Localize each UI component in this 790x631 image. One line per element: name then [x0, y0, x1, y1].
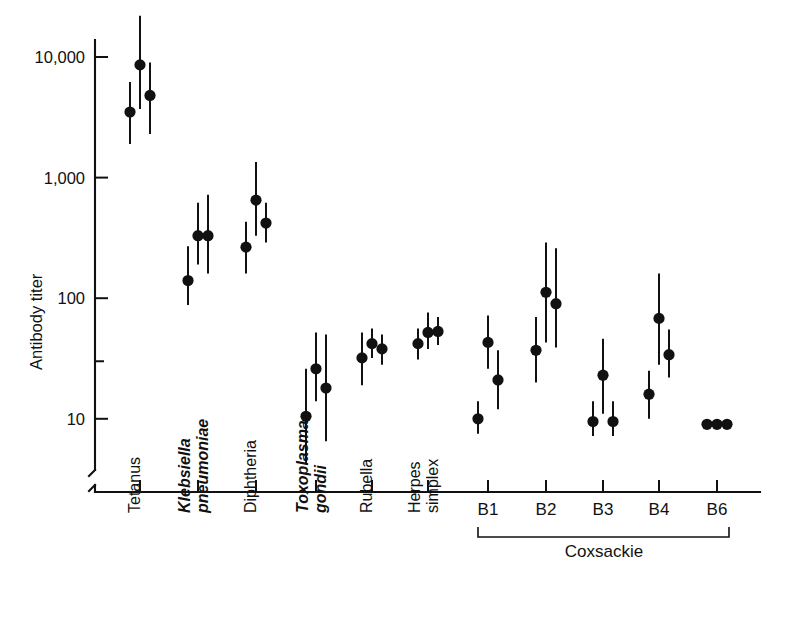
data-point	[366, 338, 377, 349]
data-series	[124, 16, 732, 463]
data-point	[300, 411, 311, 422]
data-point	[192, 230, 203, 241]
group-label-b2: B2	[536, 500, 557, 519]
data-point	[663, 349, 674, 360]
group-label-b3: B3	[593, 500, 614, 519]
data-point	[607, 416, 618, 427]
group-label-b6: B6	[707, 500, 728, 519]
data-point	[653, 313, 664, 324]
group-label-b4: B4	[649, 500, 670, 519]
data-point	[320, 382, 331, 393]
data-point	[124, 106, 135, 117]
category-group-b2	[530, 242, 561, 382]
category-group-b4	[643, 274, 674, 419]
data-point	[587, 416, 598, 427]
chart-canvas: 10,0001,00010010 Antibody titer B1B2B3B4…	[0, 0, 790, 631]
data-point	[376, 343, 387, 354]
category-label-toxoplasma-gondii-line2: gondii	[312, 464, 329, 514]
category-group-b6	[701, 419, 732, 430]
y-axis-title: Antibody titer	[27, 273, 45, 370]
data-point	[250, 195, 261, 206]
y-tick-marks	[95, 57, 108, 419]
category-group-b3	[587, 339, 618, 436]
data-point	[482, 337, 493, 348]
category-group-rubella	[356, 329, 387, 386]
category-label-herpes-simplex-line2: simplex	[424, 459, 441, 513]
data-point	[432, 326, 443, 337]
data-point	[202, 230, 213, 241]
coxsackie-label: Coxsackie	[565, 542, 643, 561]
data-point	[144, 90, 155, 101]
data-point	[540, 287, 551, 298]
category-label-klebsiella-pneumoniae-line1: Klebsiella	[176, 438, 193, 513]
category-label-diphtheria-line1: Diphtheria	[242, 440, 259, 513]
antibody-titer-figure: 10,0001,00010010 Antibody titer B1B2B3B4…	[0, 0, 790, 631]
category-group-herpes-simplex	[412, 313, 443, 360]
category-label-toxoplasma-gondii-line1: Toxoplasma	[294, 420, 311, 513]
category-labels: TetanusKlebsiellapneumoniaeDiphtheriaTox…	[126, 419, 441, 514]
category-group-tetanus	[124, 16, 155, 144]
data-point	[356, 352, 367, 363]
data-point	[492, 374, 503, 385]
data-point	[240, 242, 251, 253]
y-tick-label-100: 100	[57, 289, 85, 307]
data-point	[472, 413, 483, 424]
category-group-klebsiella-pneumoniae	[182, 195, 213, 305]
data-point	[260, 217, 271, 228]
y-tick-label-10: 10	[67, 410, 85, 428]
data-point	[422, 327, 433, 338]
group-label-b1: B1	[478, 500, 499, 519]
data-point	[530, 345, 541, 356]
data-point	[701, 419, 712, 430]
data-point	[412, 338, 423, 349]
data-point	[597, 370, 608, 381]
category-group-diphtheria	[240, 162, 271, 274]
y-tick-label-10000: 10,000	[35, 48, 85, 66]
category-label-tetanus-line1: Tetanus	[126, 457, 143, 513]
data-point	[643, 389, 654, 400]
data-point	[721, 419, 732, 430]
data-point	[310, 363, 321, 374]
category-label-klebsiella-pneumoniae-line2: pneumoniae	[194, 419, 211, 514]
coxsackie-bracket	[478, 527, 729, 537]
category-group-b1	[472, 315, 503, 433]
data-point	[134, 59, 145, 70]
data-point	[550, 298, 561, 309]
category-label-rubella-line1: Rubella	[358, 459, 375, 513]
category-label-herpes-simplex-line1: Herpes	[406, 461, 423, 513]
coxsackie-group-labels: B1B2B3B4B6	[478, 500, 728, 519]
data-point	[711, 419, 722, 430]
data-point	[182, 275, 193, 286]
y-tick-label-1000: 1,000	[44, 169, 85, 187]
y-axis	[89, 40, 95, 492]
